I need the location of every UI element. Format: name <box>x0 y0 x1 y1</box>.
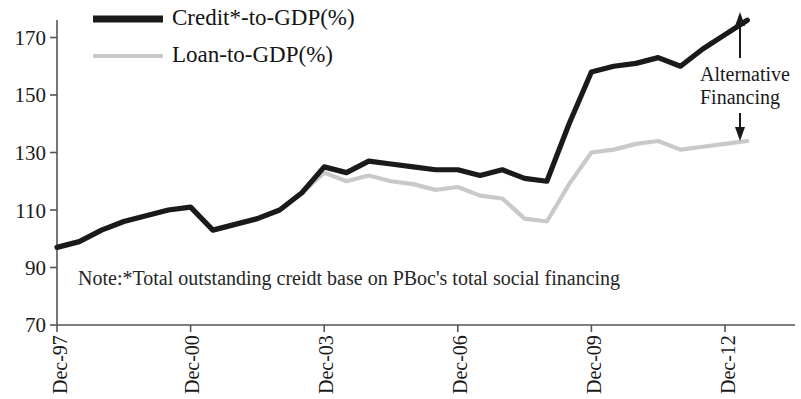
chart-container: 170 150 130 110 90 70 Dec-97 Dec-00 Dec-… <box>0 0 801 399</box>
legend-label-loan-to-gdp: Loan-to-GDP(%) <box>172 43 333 66</box>
x-tick-label-dec-97: Dec-97 <box>50 335 70 394</box>
x-tick-label-dec-06: Dec-06 <box>450 335 470 394</box>
chart-plot-area <box>0 0 801 399</box>
y-tick-label-90: 90 <box>0 258 46 279</box>
series-line-loan-to-gdp <box>57 141 747 247</box>
y-axis-ticks <box>50 38 57 326</box>
y-tick-label-70: 70 <box>0 315 46 336</box>
chart-note: Note:*Total outstanding creidt base on P… <box>78 268 620 288</box>
annotation-alternative-financing: Alternative Financing <box>700 63 790 109</box>
legend-label-credit-to-gdp: Credit*-to-GDP(%) <box>172 6 355 29</box>
annotation-line-2: Financing <box>700 86 790 109</box>
x-tick-label-dec-09: Dec-09 <box>584 335 604 394</box>
y-tick-label-110: 110 <box>0 201 46 222</box>
y-tick-label-150: 150 <box>0 85 46 106</box>
y-tick-label-130: 130 <box>0 143 46 164</box>
y-tick-label-170: 170 <box>0 28 46 49</box>
x-tick-label-dec-03: Dec-03 <box>316 335 336 394</box>
x-axis-ticks <box>57 325 725 332</box>
x-tick-label-dec-00: Dec-00 <box>182 335 202 394</box>
x-tick-label-dec-12: Dec-12 <box>718 335 738 394</box>
annotation-line-1: Alternative <box>700 63 790 86</box>
